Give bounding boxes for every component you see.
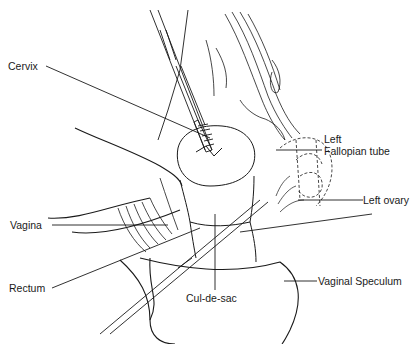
cannula-instrument — [150, 10, 214, 152]
diagram-canvas: Cervix Left Fallopian tube Left ovary Va… — [0, 0, 420, 344]
label-rectum: Rectum — [9, 282, 45, 294]
label-left-fallopian-tube-line2: Fallopian tube — [324, 145, 390, 157]
label-left-fallopian-tube-line1: Left — [324, 133, 342, 145]
left-ovary-fimbriae — [276, 176, 304, 212]
rectum-leader — [52, 228, 200, 288]
ovary-edge-line — [240, 214, 372, 232]
label-cul-de-sac: Cul-de-sac — [186, 292, 237, 304]
vaginal-speculum-blades — [48, 128, 298, 344]
upper-tissue-folds — [206, 12, 300, 140]
cervix-shape — [177, 126, 256, 262]
label-left-ovary: Left ovary — [363, 194, 409, 206]
label-vaginal-speculum: Vaginal Speculum — [318, 275, 402, 287]
label-vagina: Vagina — [10, 219, 42, 231]
label-cervix: Cervix — [8, 60, 38, 72]
leader-lines — [46, 66, 372, 290]
